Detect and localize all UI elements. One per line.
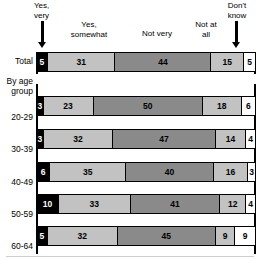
segment-yes-somewhat: 23 <box>44 97 94 115</box>
segment-not-at-all: 16 <box>214 163 249 181</box>
segment-not-at-all: 15 <box>211 53 244 71</box>
segment-yes-very: 5 <box>37 227 48 245</box>
segment-not-at-all: 18 <box>203 97 242 115</box>
segment-dont-know: 3 <box>248 163 255 181</box>
segment-dont-know: 5 <box>244 53 255 71</box>
row-label-40-49: 40-49 <box>0 178 33 188</box>
stacked-bar-40-49: 6 35 40 16 3 <box>37 162 255 182</box>
segment-dont-know: 9 <box>235 227 255 245</box>
row-label-50-59: 50-59 <box>0 210 33 220</box>
row-label-20-29: 20-29 <box>0 113 33 123</box>
segment-yes-very: 6 <box>37 163 50 181</box>
arrow-head <box>232 42 240 48</box>
segment-not-very: 45 <box>118 227 216 245</box>
segment-not-very: 40 <box>126 163 213 181</box>
stacked-bar-20-29: 3 23 50 18 6 <box>37 96 255 116</box>
segment-yes-very: 5 <box>37 53 48 71</box>
footer-divider <box>6 256 254 257</box>
segment-not-very: 47 <box>113 130 215 148</box>
segment-not-very: 44 <box>115 53 211 71</box>
stacked-bar-30-39: 3 32 47 14 4 <box>37 129 255 149</box>
segment-not-very: 41 <box>131 195 220 213</box>
segment-not-at-all: 14 <box>216 130 247 148</box>
arrow-down-icon-yes-very <box>38 21 47 49</box>
row-label-total: Total <box>0 57 33 67</box>
legend-label-not-very: Not very <box>128 29 186 39</box>
arrow-shaft <box>41 21 44 43</box>
segment-dont-know: 4 <box>246 195 255 213</box>
arrow-head <box>38 42 46 48</box>
legend-label-dont-know: Don't know <box>214 1 260 20</box>
segment-yes-very: 10 <box>37 195 59 213</box>
segment-not-at-all: 9 <box>216 227 236 245</box>
chart-canvas: Yes, very Yes, somewhat Not very Not at … <box>0 0 261 260</box>
legend-label-yes-somewhat: Yes, somewhat <box>58 20 120 39</box>
legend-label-not-at-all: Not at all <box>186 20 226 39</box>
segment-yes-somewhat: 31 <box>48 53 116 71</box>
legend-label-yes-very: Yes, very <box>34 1 78 20</box>
segment-dont-know: 6 <box>242 97 255 115</box>
stacked-bar-60-64: 5 32 45 9 9 <box>37 226 255 246</box>
row-label-30-39: 30-39 <box>0 145 33 155</box>
segment-yes-somewhat: 32 <box>44 130 114 148</box>
arrow-shaft <box>235 21 238 43</box>
segment-yes-somewhat: 32 <box>48 227 118 245</box>
row-label-60-64: 60-64 <box>0 242 33 252</box>
segment-yes-somewhat: 35 <box>50 163 126 181</box>
row-label-by-age-group: By age group <box>0 77 33 96</box>
segment-not-at-all: 12 <box>220 195 246 213</box>
segment-not-very: 50 <box>94 97 203 115</box>
arrow-down-icon-dont-know <box>232 21 241 49</box>
stacked-bar-total: 5 31 44 15 5 <box>37 52 255 72</box>
stacked-bar-50-59: 10 33 41 12 4 <box>37 194 255 214</box>
segment-yes-somewhat: 33 <box>59 195 131 213</box>
segment-dont-know: 4 <box>246 130 255 148</box>
